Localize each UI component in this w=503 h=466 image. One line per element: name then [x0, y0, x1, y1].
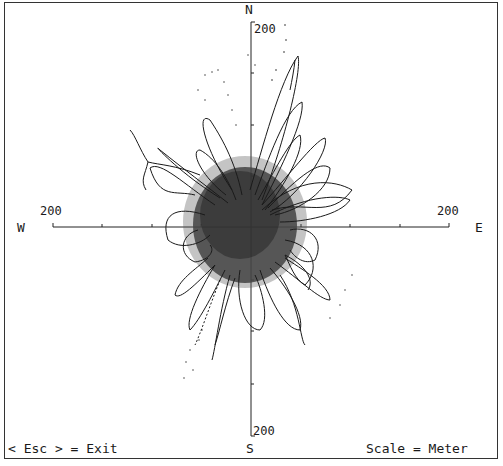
- south-range-label: 200: [253, 424, 275, 438]
- scale-label: Scale = Meter: [366, 442, 468, 456]
- west-range-label: 200: [40, 204, 62, 218]
- east-range-label: 200: [437, 204, 459, 218]
- exit-hint[interactable]: < Esc > = Exit: [8, 442, 118, 456]
- track-plot: [0, 0, 503, 466]
- compass-south: S: [246, 442, 254, 456]
- compass-east: E: [475, 221, 483, 235]
- compass-north: N: [245, 3, 253, 17]
- north-range-label: 200: [254, 22, 276, 36]
- compass-west: W: [17, 221, 25, 235]
